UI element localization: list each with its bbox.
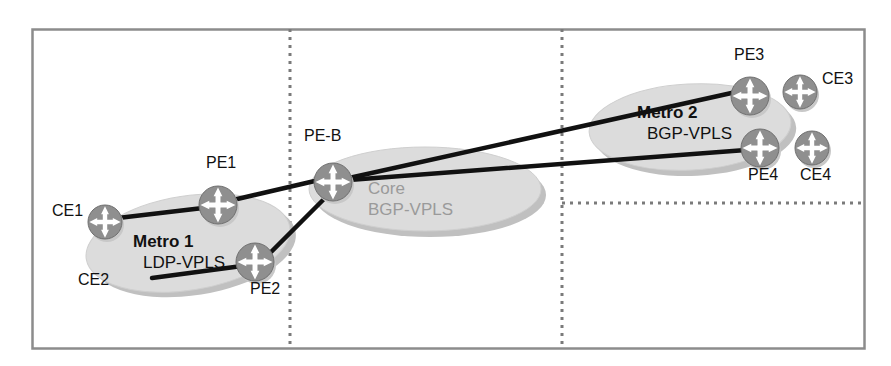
router-icon-ce3[interactable] (783, 75, 819, 112)
node-label-ce1: CE1 (52, 203, 83, 219)
router-hub (331, 180, 336, 185)
node-label-ce3: CE3 (822, 71, 853, 87)
link-pe1-peb (233, 180, 319, 200)
node-label-ce2: CE2 (78, 272, 109, 288)
router-hub (103, 220, 107, 224)
router-hub (748, 94, 753, 99)
node-label-ce4: CE4 (800, 167, 831, 183)
diagram-canvas: CE1PE1PE2CE2PE-BPE3CE3PE4CE4Metro 1LDP-V… (0, 0, 891, 366)
cloud-label-title-core: Core (368, 180, 453, 197)
cloud-label-subtitle-core: BGP-VPLS (368, 201, 453, 218)
router-icon-ce4[interactable] (795, 131, 831, 168)
router-hub (810, 146, 814, 150)
router-hub (253, 260, 258, 265)
cloud-label-subtitle-metro2: BGP-VPLS (647, 125, 732, 142)
node-label-pe2: PE2 (250, 281, 280, 297)
router-hub (216, 203, 221, 208)
node-label-pe3: PE3 (734, 47, 764, 63)
router-hub (758, 146, 763, 151)
cloud-label-metro2: Metro 2BGP-VPLS (637, 104, 732, 142)
node-label-pe4: PE4 (748, 167, 778, 183)
node-label-peb: PE-B (304, 128, 341, 144)
node-label-pe1: PE1 (206, 155, 236, 171)
cloud-label-title-metro2: Metro 2 (637, 104, 732, 121)
router-hub (798, 90, 802, 94)
cloud-label-metro1: Metro 1LDP-VPLS (133, 233, 225, 271)
cloud-label-title-metro1: Metro 1 (133, 233, 225, 250)
cloud-label-core: CoreBGP-VPLS (368, 180, 453, 218)
cloud-label-subtitle-metro1: LDP-VPLS (143, 254, 225, 271)
